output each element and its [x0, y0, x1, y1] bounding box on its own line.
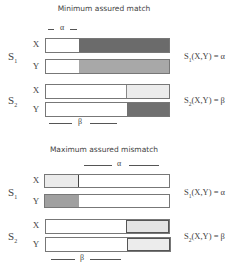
- alpha-label: α: [57, 23, 67, 32]
- alpha-dimension-line-right: [129, 165, 159, 166]
- s1-equation: S1(X,Y) = α: [184, 187, 225, 199]
- s1-label: S1: [8, 186, 17, 200]
- row-label-x: X: [30, 85, 42, 95]
- row-label-y: Y: [30, 104, 42, 114]
- s2-label: S2: [8, 230, 17, 244]
- panel-title-min-match: Minimum assured match: [0, 4, 208, 13]
- beta-dimension-line-right: [90, 259, 121, 260]
- row-label-y: Y: [30, 61, 42, 71]
- s2-label: S2: [8, 94, 17, 108]
- s2-equation: S2(X,Y) = β: [184, 231, 225, 243]
- s2-y-bar: [45, 237, 171, 252]
- alpha-dimension-line-left: [84, 165, 112, 166]
- s2-x-bar: [45, 84, 170, 99]
- beta-label: β: [77, 253, 87, 262]
- row-label-y: Y: [30, 239, 42, 249]
- alpha-dimension-line-right: [70, 29, 77, 30]
- s2-x-fill: [126, 85, 169, 98]
- beta-label: β: [75, 117, 85, 126]
- s2-x-fill: [126, 220, 169, 233]
- alpha-dimension-line-left: [48, 29, 54, 30]
- alpha-label: α: [114, 159, 124, 168]
- s1-x-bar: [44, 174, 170, 188]
- s1-label: S1: [8, 50, 17, 64]
- s2-x-bar: [45, 219, 170, 234]
- s1-equation: S1(X,Y) = α: [184, 51, 225, 63]
- s1-y-bar: [45, 59, 170, 74]
- s1-x-fill: [79, 39, 169, 52]
- s1-y-fill: [79, 60, 169, 73]
- s2-equation: S2(X,Y) = β: [184, 95, 225, 107]
- s2-y-bar: [45, 102, 170, 117]
- s2-y-fill: [127, 103, 169, 116]
- s1-x-bar: [45, 38, 170, 53]
- beta-dimension-line-left: [51, 259, 75, 260]
- row-label-x: X: [30, 220, 42, 230]
- s1-x-fill: [45, 175, 79, 187]
- beta-dimension-line-right: [90, 123, 117, 124]
- panel-title-max-mismatch: Maximum assured mismatch: [0, 145, 208, 154]
- row-label-y: Y: [30, 196, 42, 206]
- row-label-x: X: [30, 175, 42, 185]
- s1-y-fill: [45, 195, 79, 207]
- row-label-x: X: [30, 39, 42, 49]
- s1-y-bar: [44, 194, 170, 208]
- s2-y-fill: [127, 238, 170, 251]
- beta-dimension-line-left: [49, 123, 72, 124]
